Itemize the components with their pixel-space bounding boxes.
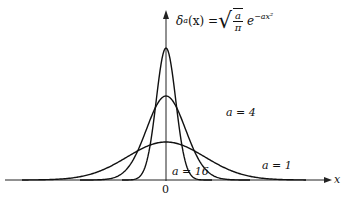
- x-axis-arrow-icon: [324, 177, 332, 183]
- sqrt-icon: √ a π: [218, 8, 244, 33]
- frac-numerator: a: [233, 10, 243, 22]
- title-arg: (x) =: [188, 14, 218, 28]
- label-a4: a = 4: [226, 106, 256, 119]
- title-exponent: −ax²: [254, 12, 273, 21]
- title-delta: δ: [176, 14, 183, 28]
- chart-title-formula: δa(x) = √ a π e−ax²: [176, 8, 273, 33]
- origin-label: 0: [162, 183, 169, 196]
- frac-denominator: π: [235, 22, 242, 33]
- label-a1: a = 1: [262, 159, 292, 172]
- label-a16: a = 16: [172, 165, 209, 178]
- y-axis-arrow-icon: [163, 10, 169, 19]
- title-e: e: [247, 14, 254, 28]
- x-axis-label: x: [334, 173, 340, 186]
